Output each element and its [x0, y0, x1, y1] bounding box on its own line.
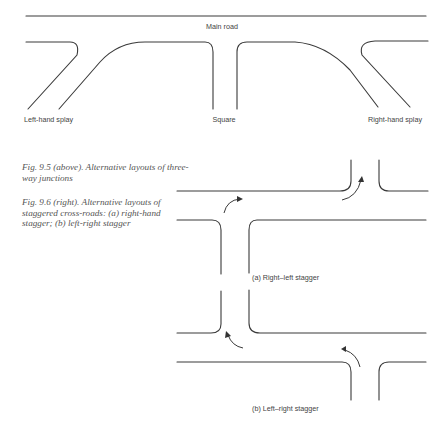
square-and-right-splay-junction: [237, 41, 428, 109]
left-splay-kerb-left: [26, 42, 78, 109]
panel-a-right-left-stagger: (a) Right–left stagger: [177, 160, 428, 282]
square-kerb-right: [237, 42, 378, 109]
a-arrowhead-right: [358, 176, 364, 182]
left-splay-kerb-right: [59, 42, 213, 109]
main-road-label: Main road: [206, 22, 238, 31]
figure-9-5-caption: Fig. 9.5 (above). Alternative layouts of…: [22, 162, 192, 183]
panel-b-label: (b) Left–right stagger: [252, 404, 319, 413]
b-top-left-kerb: [177, 291, 221, 333]
b-bottom-right-kerb: [379, 362, 426, 400]
b-arrowhead-right: [341, 346, 346, 352]
a-arrowhead-left: [237, 196, 243, 202]
junction-label-left-hand-splay: Left-hand splay: [24, 115, 74, 124]
junction-label-right-hand-splay: Right-hand splay: [368, 115, 422, 124]
b-arrowhead-left: [225, 331, 231, 338]
panel-b-left-right-stagger: (b) Left–right stagger: [177, 290, 426, 413]
left-hand-splay-junction: [26, 42, 213, 109]
b-bottom-left-kerb: [177, 362, 351, 400]
a-top-right-kerb: [379, 160, 428, 191]
panel-a-label: (a) Right–left stagger: [252, 273, 320, 282]
a-bottom-right-kerb: [249, 220, 426, 273]
right-splay-kerb: [361, 41, 428, 107]
b-turn-arrow-left: [228, 335, 243, 348]
figure-9-6-caption: Fig. 9.6 (right). Alternative layouts of…: [22, 197, 192, 229]
a-top-left-kerb: [177, 160, 351, 191]
b-turn-arrow-right: [345, 350, 360, 367]
junction-label-square: Square: [212, 115, 235, 124]
b-top-right-kerb: [249, 290, 426, 333]
